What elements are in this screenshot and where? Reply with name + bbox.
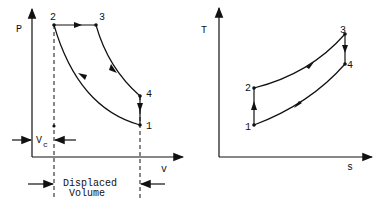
arrow-1-2 [78, 73, 87, 80]
ts-label-2: 2 [245, 83, 251, 94]
ts-arrow-3-4 [342, 45, 348, 53]
displaced-volume-label-line2: Volume [69, 188, 105, 199]
ts-label-4: 4 [347, 60, 353, 71]
pv-label-2: 2 [50, 12, 56, 23]
ts-y-axis-label: T [201, 25, 207, 36]
vc-subscript: c [43, 140, 48, 149]
process-1-2 [54, 25, 140, 125]
pv-label-3: 3 [99, 12, 105, 23]
pv-point-3 [94, 23, 98, 27]
arrow-4-1 [137, 103, 143, 112]
ts-x-axis-label: s [347, 162, 353, 173]
ts-label-1: 1 [245, 122, 251, 133]
pv-y-axis-label: P [16, 24, 22, 35]
ts-process-2-3 [254, 34, 345, 88]
arrow-2-3 [74, 22, 82, 28]
ts-process-4-1 [254, 64, 345, 125]
ts-label-3: 3 [340, 25, 346, 36]
pv-label-1: 1 [146, 121, 152, 132]
ts-point-2 [252, 86, 256, 90]
diesel-cycle-diagrams: P v 2 3 4 1 V c Displaced [0, 0, 380, 207]
ts-point-1 [252, 123, 256, 127]
clearance-dot [52, 124, 55, 127]
pv-point-1 [138, 123, 142, 127]
pv-x-axis-label: v [161, 164, 167, 175]
pv-point-2 [52, 23, 56, 27]
pv-point-4 [138, 94, 142, 98]
pv-diagram: P v 2 3 4 1 V c Displaced [12, 9, 183, 200]
pv-label-4: 4 [146, 89, 152, 100]
vc-label: V [36, 135, 42, 146]
ts-diagram: T s 1 2 3 4 [201, 8, 372, 173]
process-3-4 [96, 25, 140, 96]
ts-arrow-1-2 [251, 101, 257, 110]
